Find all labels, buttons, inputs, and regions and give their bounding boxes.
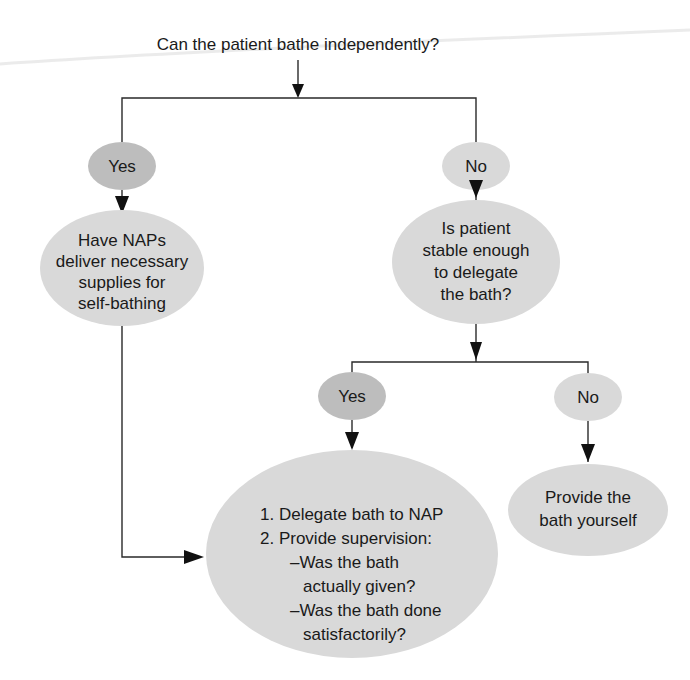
delegate-line-1: 1. Delegate bath to NAP <box>260 505 443 524</box>
diagram-title: Can the patient bathe independently? <box>157 35 440 54</box>
delegate-line-3: –Was the bath <box>290 553 399 572</box>
branch-connector-1 <box>122 98 476 142</box>
delegate-line-6: satisfactorily? <box>303 625 406 644</box>
delegate-line-5: –Was the bath done <box>290 601 442 620</box>
yes-oval-1: Yes <box>88 142 156 190</box>
provide-line-2: bath yourself <box>539 511 637 530</box>
yes-oval-2: Yes <box>318 372 386 420</box>
is-stable-node: Is patient stable enough to delegate the… <box>392 200 560 324</box>
flowchart: Can the patient bathe independently? Yes… <box>0 0 690 680</box>
have-naps-line-2: deliver necessary <box>56 252 189 271</box>
is-stable-line-3: to delegate <box>434 263 518 282</box>
is-stable-line-1: Is patient <box>442 219 511 238</box>
arrow-title-to-branch <box>292 60 304 98</box>
provide-line-1: Provide the <box>545 488 631 507</box>
delegate-line-4: actually given? <box>303 577 415 596</box>
arrow-is-stable-to-branch <box>470 324 482 362</box>
yes-label-1: Yes <box>108 157 136 176</box>
have-naps-line-1: Have NAPs <box>78 231 166 250</box>
branch-connector-2 <box>352 362 588 376</box>
delegate-line-2: 2. Provide supervision: <box>260 529 432 548</box>
no-label-1: No <box>465 157 487 176</box>
have-naps-line-3: supplies for <box>79 273 166 292</box>
no-oval-2: No <box>554 373 622 421</box>
yes-label-2: Yes <box>338 387 366 406</box>
have-naps-line-4: self-bathing <box>78 294 166 313</box>
delegate-node: 1. Delegate bath to NAP 2. Provide super… <box>206 450 498 658</box>
provide-node: Provide the bath yourself <box>508 464 668 556</box>
is-stable-line-4: the bath? <box>441 285 512 304</box>
is-stable-line-2: stable enough <box>423 241 530 260</box>
have-naps-node: Have NAPs deliver necessary supplies for… <box>40 210 204 326</box>
arrow-no1-to-is-stable <box>469 180 483 200</box>
provide-shape <box>508 464 668 556</box>
arrow-have-naps-to-delegate <box>122 326 204 564</box>
no-label-2: No <box>577 388 599 407</box>
arrow-yes2-to-delegate <box>345 420 359 450</box>
arrow-no2-to-provide <box>581 421 595 462</box>
